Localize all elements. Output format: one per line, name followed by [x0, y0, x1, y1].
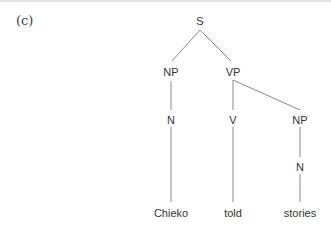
- node-np-object: NP: [292, 115, 307, 126]
- branch-s-np: [172, 30, 200, 61]
- branch-vp-np: [233, 80, 300, 110]
- word-stories: stories: [284, 208, 316, 219]
- node-v: V: [229, 115, 236, 126]
- node-vp: VP: [226, 67, 241, 78]
- word-chieko: Chieko: [154, 208, 188, 219]
- node-n-subject: N: [167, 115, 175, 126]
- branch-s-vp: [200, 30, 231, 61]
- node-s: S: [196, 16, 203, 27]
- node-n-object: N: [296, 162, 304, 173]
- tree-branches: [0, 0, 331, 226]
- syntax-tree-figure: (c) S NP VP N V NP N Chieko told stories: [0, 0, 331, 226]
- word-told: told: [224, 208, 242, 219]
- node-np-subject: NP: [163, 67, 178, 78]
